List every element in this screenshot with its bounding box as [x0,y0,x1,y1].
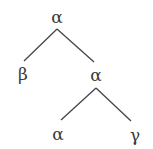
node-midleft: α [52,126,63,143]
edge-mid-midright [96,88,131,121]
node-midright: γ [130,127,140,144]
node-root: α [51,9,62,26]
node-mid: α [90,67,101,84]
edge-mid-midleft [61,88,96,120]
edge-root-mid [57,29,94,62]
node-left: β [18,66,28,83]
tree-diagram: α β α α γ [0,0,153,149]
edge-root-left [24,29,57,61]
